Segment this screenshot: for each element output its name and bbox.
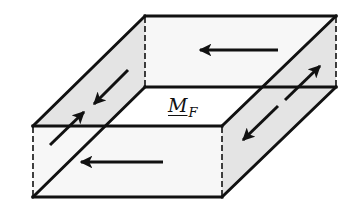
moment-label: MF (168, 94, 198, 120)
moment-label-subscript: F (188, 105, 197, 120)
moment-label-main: M (168, 94, 187, 116)
